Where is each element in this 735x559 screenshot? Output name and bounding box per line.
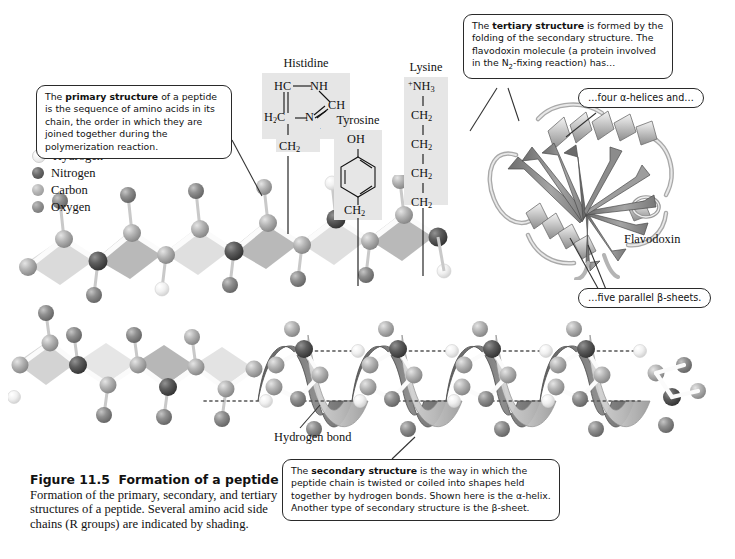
figure-caption-body: Formation of the primary, secondary, and…: [30, 488, 277, 531]
legend-label-carbon: Carbon: [51, 183, 88, 198]
sidechain-tyrosine-title: Tyrosine: [334, 113, 382, 128]
figure-canvas: Histidine HC NH CH H2C N H+: [0, 0, 735, 559]
histidine-atom-ch2: CH2: [279, 140, 300, 154]
histidine-atom-ch: CH: [328, 99, 345, 111]
tyrosine-atom-oh: OH: [347, 133, 365, 145]
callout-five-sheets-text: …five parallel β-sheets.: [588, 292, 701, 303]
callout-primary-text: The primary structure of a peptide is th…: [45, 91, 217, 152]
legend-label-oxygen: Oxygen: [51, 200, 91, 215]
figure-caption: Figure 11.5 Formation of a peptide Forma…: [30, 473, 280, 531]
histidine-atom-hc: HC: [274, 80, 291, 92]
sidechain-lysine: Lysine +NH3 CH2 CH2 CH2 CH2: [404, 60, 448, 205]
tyrosine-stem: [334, 218, 382, 288]
figure-number: Figure 11.5: [30, 472, 110, 487]
callout-five-beta-sheets: …five parallel β-sheets.: [578, 288, 711, 308]
carbon-atom-icon: [32, 184, 44, 196]
oxygen-atom-icon: [32, 201, 44, 213]
sidechain-tyrosine: Tyrosine OH CH2: [334, 113, 382, 220]
tyrosine-atom-ch2: CH2: [344, 204, 365, 218]
callout-tertiary-text: The tertiary structure is formed by the …: [472, 20, 663, 68]
callout-secondary-text: The secondary structure is the way in wh…: [291, 465, 551, 513]
callout-secondary-structure: The secondary structure is the way in wh…: [282, 459, 560, 521]
sidechain-lysine-title: Lysine: [404, 60, 448, 75]
lysine-bonds-upper: [404, 77, 448, 205]
nitrogen-atom-icon: [32, 167, 44, 179]
legend-item-oxygen: Oxygen: [32, 199, 103, 215]
callout-four-helices: …four α-helices and…: [578, 88, 704, 108]
alpha-helix-structure: [8, 305, 718, 460]
callout-primary-structure: The primary structure of a peptide is th…: [36, 85, 232, 159]
legend-item-carbon: Carbon: [32, 182, 103, 198]
label-flavodoxin: Flavodoxin: [624, 232, 680, 247]
flavodoxin-ribbon-diagram: [478, 95, 688, 280]
label-hydrogen-bond: Hydrogen bond: [274, 430, 351, 445]
histidine-atom-nh: NH: [310, 80, 328, 92]
callout-four-helices-text: …four α-helices and…: [588, 92, 694, 103]
figure-title: Formation of a peptide: [118, 472, 278, 487]
lysine-stem: [404, 208, 448, 278]
callout-tertiary-structure: The tertiary structure is formed by the …: [463, 14, 673, 79]
legend-item-nitrogen: Nitrogen: [32, 165, 103, 181]
sidechain-histidine-title: Histidine: [262, 56, 350, 71]
legend-label-nitrogen: Nitrogen: [51, 166, 95, 181]
